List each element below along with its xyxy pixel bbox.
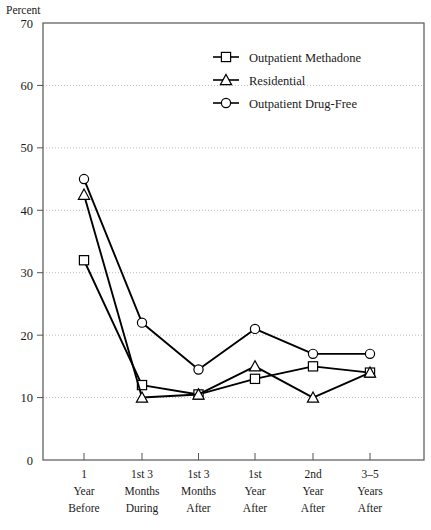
x-axis-tick-label: 2nd — [304, 468, 322, 480]
data-point-triangle-marker — [249, 361, 260, 371]
y-axis-tick-label: 20 — [21, 329, 34, 343]
x-axis-tick-label: Months — [181, 485, 217, 497]
data-point-triangle-marker — [307, 392, 318, 402]
x-axis-tick-label: After — [301, 502, 325, 514]
x-axis-tick-label: 1st — [248, 468, 262, 480]
data-point-circle-marker — [79, 174, 88, 183]
data-point-square-marker — [250, 374, 259, 383]
data-point-square-marker — [308, 362, 317, 371]
legend-label: Residential — [249, 74, 306, 88]
x-axis-tick-label: After — [186, 502, 210, 514]
data-point-circle-marker — [365, 349, 374, 358]
x-axis-tick-label: 1st 3 — [131, 468, 153, 480]
plot-frame — [43, 23, 424, 460]
legend-label: Outpatient Drug-Free — [249, 97, 357, 111]
y-axis-tick-label: 50 — [21, 141, 34, 155]
data-point-circle-marker — [308, 349, 317, 358]
data-point-circle-marker — [250, 324, 259, 333]
data-point-square-marker — [79, 256, 88, 265]
percent-line-chart: Percent0102030405060701YearBefore1st 3Mo… — [0, 0, 431, 530]
x-axis-tick-label: During — [126, 502, 159, 515]
series-line — [84, 179, 370, 369]
series-line — [84, 260, 370, 394]
series-1 — [78, 189, 375, 402]
x-axis-tick-label: Before — [68, 502, 99, 514]
y-axis-unit-label: Percent — [6, 4, 41, 16]
y-axis-tick-label: 60 — [21, 79, 34, 93]
x-axis-labels: 1YearBefore1st 3MonthsDuring1st 3MonthsA… — [68, 453, 383, 515]
x-axis-tick-label: 1 — [81, 468, 87, 480]
chart-container: Percent0102030405060701YearBefore1st 3Mo… — [0, 0, 431, 530]
y-axis-tick-label: 10 — [21, 391, 34, 405]
x-axis-tick-label: After — [358, 502, 382, 514]
x-axis-tick-label: Year — [244, 485, 265, 497]
y-axis-tick-label: 0 — [27, 454, 33, 468]
x-axis-tick-label: 1st 3 — [187, 468, 209, 480]
y-axis-tick-label: 30 — [21, 266, 34, 280]
x-axis-tick-label: Years — [357, 485, 383, 497]
x-axis-tick-label: After — [243, 502, 267, 514]
data-point-circle-marker — [194, 365, 203, 374]
x-axis-tick-label: Year — [302, 485, 323, 497]
x-axis-tick-label: 3–5 — [361, 468, 379, 480]
y-axis-tick-label: 40 — [21, 204, 34, 218]
data-point-square-marker — [221, 52, 230, 61]
data-point-circle-marker — [221, 98, 230, 107]
data-point-circle-marker — [137, 318, 146, 327]
x-axis-tick-label: Months — [124, 485, 160, 497]
chart-legend: Outpatient MethadoneResidentialOutpatien… — [213, 51, 362, 111]
x-axis-tick-label: Year — [73, 485, 94, 497]
y-axis-tick-label: 70 — [21, 17, 34, 31]
legend-label: Outpatient Methadone — [249, 51, 362, 65]
